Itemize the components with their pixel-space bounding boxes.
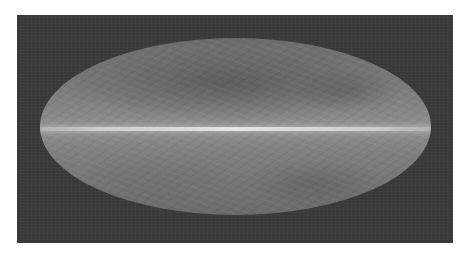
- sky-map-frame: [17, 15, 453, 243]
- galactic-plane-band: [40, 127, 431, 131]
- all-sky-mollweide-ellipse: [40, 38, 431, 215]
